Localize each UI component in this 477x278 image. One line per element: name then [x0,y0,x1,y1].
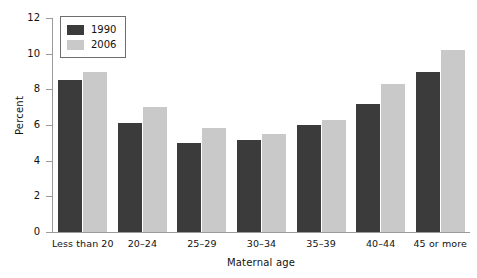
bar-2006-40–44 [381,84,405,232]
bar-group [237,18,286,232]
y-axis-tick-label: 8 [0,83,40,94]
y-axis-tick [46,89,52,90]
bar-2006-35–39 [322,120,346,232]
bar-group [416,18,465,232]
bar-group [177,18,226,232]
bar-1990-20–24 [118,123,142,232]
bar-group [297,18,346,232]
bar-1990-40–44 [356,104,380,232]
chart-legend: 19902006 [60,16,126,58]
y-axis-tick [46,54,52,55]
bar-1990-25–29 [177,143,201,232]
bar-1990-Less-than-20 [58,80,82,232]
y-axis-tick [46,125,52,126]
bar-2006-45-or-more [441,50,465,232]
y-axis-tick [46,18,52,19]
legend-item: 1990 [67,22,116,37]
x-axis-title: Maternal age [52,257,470,268]
y-axis-tick-label: 4 [0,155,40,166]
y-axis-tick-label: 10 [0,48,40,59]
y-axis-tick-label: 0 [0,226,40,237]
bar-2006-30–34 [262,134,286,232]
y-axis-tick [46,161,52,162]
legend-swatch-1990 [67,25,84,35]
bar-1990-35–39 [297,125,321,232]
x-axis-tick-label: 45 or more [390,238,477,249]
y-axis-tick-label: 2 [0,190,40,201]
legend-swatch-2006 [67,40,84,50]
bar-2006-25–29 [202,128,226,232]
bar-1990-45-or-more [416,72,440,233]
y-axis-tick-label: 6 [0,119,40,130]
legend-label-2006: 2006 [91,40,116,50]
x-axis-line [52,232,470,233]
y-axis-tick [46,196,52,197]
legend-label-1990: 1990 [91,25,116,35]
bar-chart: Percent 024681012 Less than 2020–2425–29… [0,0,477,278]
bar-2006-20–24 [143,107,167,232]
bar-group [356,18,405,232]
bar-1990-30–34 [237,140,261,232]
legend-item: 2006 [67,37,116,52]
y-axis-tick-label: 12 [0,12,40,23]
y-axis-title: Percent [14,66,25,166]
bar-2006-Less-than-20 [83,72,107,233]
